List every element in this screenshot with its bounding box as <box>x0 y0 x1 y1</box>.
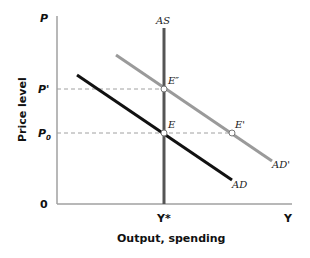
ad-label: AD <box>231 179 247 190</box>
origin-label: 0 <box>40 198 48 211</box>
ad-prime-curve <box>116 55 272 161</box>
x-axis-title: Output, spending <box>117 232 225 245</box>
e-label: E <box>167 119 176 130</box>
ad-curve <box>77 75 232 180</box>
p-zero-sub: 0 <box>46 134 51 142</box>
p-zero-main: P <box>38 127 46 140</box>
point-e-double-prime <box>161 86 167 92</box>
e-prime-label: E' <box>234 119 245 130</box>
p-zero-tick: P0 <box>38 127 51 142</box>
y-star-tick: Y* <box>156 212 171 225</box>
p-prime-tick: P' <box>38 83 49 96</box>
as-label: AS <box>155 15 170 26</box>
y-axis-title: Price level <box>16 77 29 142</box>
ad-as-chart: P Y 0 P' P0 Y* Price level Output, spend… <box>0 0 310 258</box>
point-e-prime <box>229 130 235 136</box>
point-e <box>161 130 167 136</box>
e-double-prime-label: E″ <box>167 75 179 86</box>
x-axis-symbol: Y <box>283 212 293 225</box>
ad-prime-label: AD' <box>271 159 290 170</box>
y-axis-symbol: P <box>40 12 48 25</box>
